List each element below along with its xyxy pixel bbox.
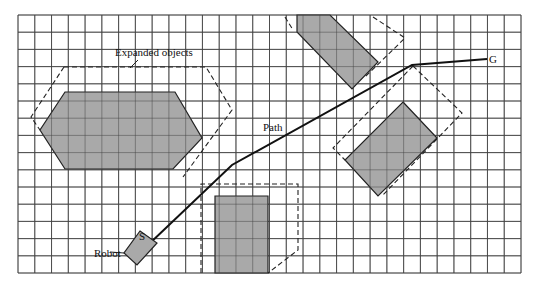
obstacle-right-rectangle	[345, 102, 437, 196]
obstacle-top-rectangle	[297, 15, 378, 89]
start-label: S	[139, 230, 145, 242]
robot-path	[148, 59, 487, 245]
expanded-objects-label: Expanded objects	[115, 46, 193, 58]
goal-label: G	[489, 53, 497, 65]
obstacle-hexagon	[40, 92, 202, 169]
robot-label: Robot	[94, 247, 121, 259]
path-label: Path	[263, 121, 283, 133]
obstacles	[40, 15, 437, 273]
obstacle-bottom-rectangle	[215, 196, 268, 273]
path-planning-diagram: Expanded objects Path S G Robot	[0, 0, 540, 292]
